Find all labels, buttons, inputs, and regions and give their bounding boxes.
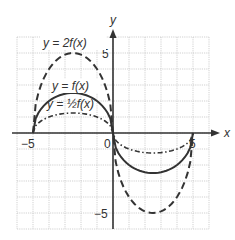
tick-label-x-5: 5 bbox=[189, 137, 196, 151]
graph: x y −5 0 5 5 −5 y = 2f(x) y = f(x) y = ½… bbox=[0, 0, 235, 240]
tick-label-y-neg5: −5 bbox=[94, 207, 108, 221]
x-axis-label: x bbox=[223, 126, 231, 140]
annotation-half-f: y = ½f(x) bbox=[46, 97, 94, 111]
y-axis-label: y bbox=[109, 13, 117, 27]
tick-label-origin: 0 bbox=[104, 137, 111, 151]
annotation-f: y = f(x) bbox=[51, 79, 89, 93]
tick-label-x-neg5: −5 bbox=[21, 137, 35, 151]
x-axis-arrow-icon bbox=[211, 130, 220, 137]
annotation-2f: y = 2f(x) bbox=[42, 36, 87, 50]
y-axis-arrow-icon bbox=[110, 29, 117, 38]
